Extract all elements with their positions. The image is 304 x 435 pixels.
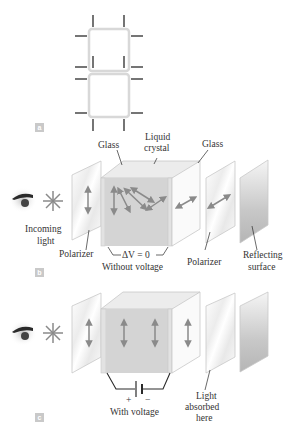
label-incoming-1: Incoming (25, 224, 61, 234)
label-reflecting-1: Reflecting (243, 250, 283, 260)
reflecting-surface (240, 292, 268, 372)
panel-c-drawing (9, 292, 268, 397)
label-absorbed-1: Light (196, 391, 217, 401)
panel-tag-c: c (35, 413, 44, 422)
polarizer-left (72, 161, 101, 240)
label-liquid-crystal-1: Liquid (145, 132, 170, 142)
polarizer-left (72, 293, 101, 373)
label-plus: + (126, 395, 131, 405)
label-without-voltage: Without voltage (102, 262, 163, 272)
label-reflecting-2: surface (248, 262, 275, 272)
label-polarizer-left: Polarizer (59, 249, 93, 259)
battery-circuit (107, 373, 170, 397)
panel-tag-a: a (35, 123, 44, 132)
liquid-crystal-cell (101, 292, 200, 373)
polarizer-right (206, 293, 235, 373)
reflecting-surface (240, 160, 268, 243)
label-liquid-crystal-2: crystal (144, 143, 169, 153)
panel-tag-b: b (35, 268, 44, 277)
seven-segment-display (75, 15, 143, 131)
label-glass-left: Glass (98, 140, 119, 150)
label-absorbed-2: absorbed (185, 402, 219, 412)
label-delta-v: ΔV = 0 (122, 250, 150, 260)
label-incoming-2: light (37, 236, 54, 246)
polarizer-right (206, 161, 235, 243)
label-glass-right: Glass (202, 139, 223, 149)
label-minus: − (145, 395, 150, 405)
unpolarized-light-icon (43, 191, 63, 211)
label-absorbed-3: here (196, 413, 212, 423)
unpolarized-light-icon (43, 323, 63, 343)
lcd-diagram (0, 0, 304, 435)
label-with-voltage: With voltage (110, 407, 159, 417)
label-polarizer-right: Polarizer (187, 257, 221, 267)
